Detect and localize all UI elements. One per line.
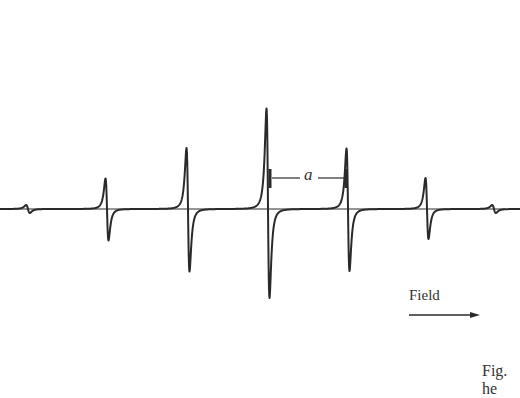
figure-caption-fragment: Fig. he: [482, 362, 507, 398]
derivative-trace: [0, 109, 520, 299]
spectrum-trace: [0, 109, 520, 299]
spacing-a-label: a: [302, 165, 315, 185]
field-axis-label: Field: [409, 287, 440, 304]
field-direction-arrow-icon: [409, 312, 480, 318]
